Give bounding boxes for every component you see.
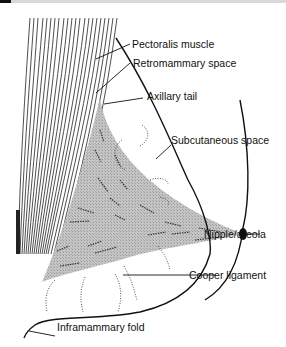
label-subcutaneous-space: Subcutaneous space xyxy=(171,134,269,146)
label-pectoralis-muscle: Pectoralis muscle xyxy=(132,38,214,50)
label-axillary-tail: Axillary tail xyxy=(147,90,197,102)
label-nipple-areola: Nipple/areola xyxy=(204,228,266,240)
label-retromammary-space: Retromammary space xyxy=(133,57,236,69)
label-inframammary-fold: Inframammary fold xyxy=(57,321,145,333)
breast-anatomy-diagram xyxy=(0,0,286,347)
muscle-shadow xyxy=(16,210,20,254)
label-cooper-ligament: Cooper ligament xyxy=(189,269,266,281)
